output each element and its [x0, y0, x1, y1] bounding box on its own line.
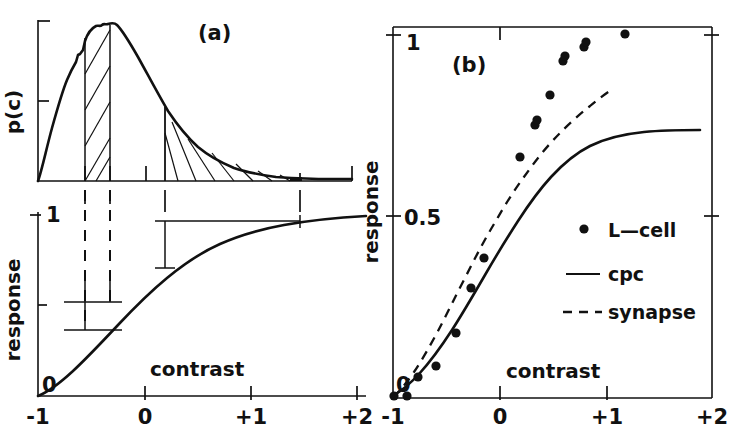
response-interval-bracket-left: [64, 272, 122, 330]
panel-a-bottom-ytick-label-0: 0: [42, 373, 57, 397]
legend-label-l-cell: L—cell: [608, 219, 676, 241]
legend-label-synapse: synapse: [608, 301, 696, 323]
panel-a-xtick-label-p2: +2: [341, 405, 373, 429]
hatch2-right-cap: [290, 177, 302, 181]
synapse-curve: [393, 90, 611, 397]
hatch-region-2: [165, 107, 290, 181]
panel-b-ylabel: response: [359, 160, 383, 263]
panel-b-xlabel: contrast: [506, 359, 601, 383]
panel-a-bottom-ytick-label-1: 1: [46, 203, 61, 227]
cpc-curve: [393, 130, 700, 396]
hatch-region-1: [85, 30, 110, 181]
panel-b: (b) 1 0.5 0 response contrast L—cell cpc…: [359, 27, 728, 429]
panel-a-xtick-label-m1: -1: [26, 405, 49, 429]
panel-a-bottom-ylabel: response: [1, 258, 25, 361]
figure-container: p(c) (a): [0, 0, 732, 448]
panel-a-bottom: 1 0 response contrast -1 0 +1 +2: [1, 203, 373, 429]
figure-svg: p(c) (a): [0, 0, 732, 448]
panel-b-xtick-label-m1: -1: [381, 405, 404, 429]
panel-b-ytick-label-half: 0.5: [404, 206, 441, 230]
panel-a-bottom-xlabel: contrast: [150, 357, 245, 381]
panel-b-label: (b): [452, 53, 486, 77]
panel-b-xtick-label-p2: +2: [696, 405, 728, 429]
panel-a-xtick-label-p1: +1: [235, 405, 267, 429]
panel-a-xtick-label-0: 0: [138, 405, 153, 429]
legend-marker-dot: [579, 224, 588, 233]
panel-b-legend: L—cell cpc synapse: [563, 219, 696, 323]
panel-b-xtick-label-p1: +1: [591, 405, 623, 429]
panel-b-xtick-label-0: 0: [493, 405, 508, 429]
panel-b-ytick-label-1: 1: [406, 31, 421, 55]
panel-a-top-ylabel: p(c): [1, 90, 25, 134]
panel-a-top: p(c) (a): [1, 20, 352, 181]
panel-a-label: (a): [198, 21, 231, 45]
panel-b-ytick-label-0: 0: [396, 373, 411, 397]
legend-label-cpc: cpc: [608, 263, 644, 285]
